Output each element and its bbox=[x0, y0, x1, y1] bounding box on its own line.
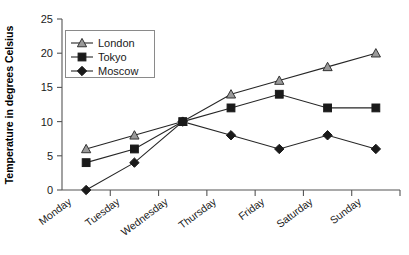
y-tick-label: 15 bbox=[41, 81, 53, 93]
legend-item-tokyo[interactable]: Tokyo bbox=[71, 51, 127, 63]
data-point-marker-square bbox=[78, 53, 86, 61]
y-tick-label: 5 bbox=[47, 150, 53, 162]
y-axis-ticks: 0510152025 bbox=[41, 13, 62, 196]
x-category-label: Friday bbox=[236, 195, 267, 223]
data-point-marker-diamond bbox=[323, 131, 332, 140]
data-point-marker-square bbox=[372, 104, 380, 112]
y-axis-title: Temperature in degrees Celsius bbox=[3, 26, 15, 185]
x-category-label: Monday bbox=[36, 195, 74, 228]
line-chart: Temperature in degrees Celsius 051015202… bbox=[0, 0, 409, 255]
chart-legend: LondonTokyoMoscow bbox=[66, 31, 155, 78]
legend-item-moscow[interactable]: Moscow bbox=[71, 65, 138, 77]
x-category-label: Tuesday bbox=[83, 195, 123, 229]
x-category-label: Wednesday bbox=[119, 195, 171, 238]
chart-canvas: Temperature in degrees Celsius 051015202… bbox=[0, 0, 409, 255]
data-point-marker-square bbox=[82, 159, 90, 167]
data-point-marker-square bbox=[275, 90, 283, 98]
x-category-label: Saturday bbox=[274, 195, 315, 230]
series-tokyo bbox=[82, 90, 380, 166]
data-point-marker-square bbox=[227, 104, 235, 112]
legend-label: Tokyo bbox=[98, 51, 127, 63]
x-category-label: Thursday bbox=[176, 195, 219, 231]
y-tick-label: 20 bbox=[41, 47, 53, 59]
x-category-label: Sunday bbox=[327, 195, 363, 226]
legend-label: London bbox=[98, 37, 135, 49]
data-point-marker-diamond bbox=[81, 185, 90, 194]
data-point-marker-diamond bbox=[226, 131, 235, 140]
data-point-marker-diamond bbox=[371, 144, 380, 153]
data-point-marker-square bbox=[324, 104, 332, 112]
x-axis-category-labels: MondayTuesdayWednesdayThursdayFridaySatu… bbox=[36, 195, 363, 238]
y-axis-title-text: Temperature in degrees Celsius bbox=[3, 26, 15, 185]
y-tick-label: 0 bbox=[47, 184, 53, 196]
legend-label: Moscow bbox=[98, 65, 138, 77]
series-moscow bbox=[81, 117, 380, 195]
y-tick-label: 10 bbox=[41, 116, 53, 128]
data-point-marker-diamond bbox=[275, 144, 284, 153]
y-tick-label: 25 bbox=[41, 13, 53, 25]
x-axis-ticks bbox=[110, 190, 400, 196]
data-point-marker-square bbox=[131, 145, 139, 153]
data-point-marker-triangle bbox=[371, 49, 380, 57]
